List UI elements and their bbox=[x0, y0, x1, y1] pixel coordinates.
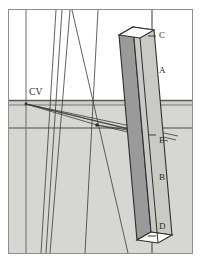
convergence-point-marker bbox=[95, 123, 99, 127]
label-e: E bbox=[159, 136, 165, 145]
label-cv: CV bbox=[29, 88, 43, 97]
diagram-canvas bbox=[0, 0, 201, 263]
label-b: B bbox=[159, 173, 165, 182]
label-d: D bbox=[159, 222, 166, 231]
label-a: A bbox=[159, 66, 166, 75]
perspective-diagram: CV C A E B D bbox=[0, 0, 201, 263]
label-c: C bbox=[159, 31, 165, 40]
cv-point-marker bbox=[25, 103, 28, 106]
